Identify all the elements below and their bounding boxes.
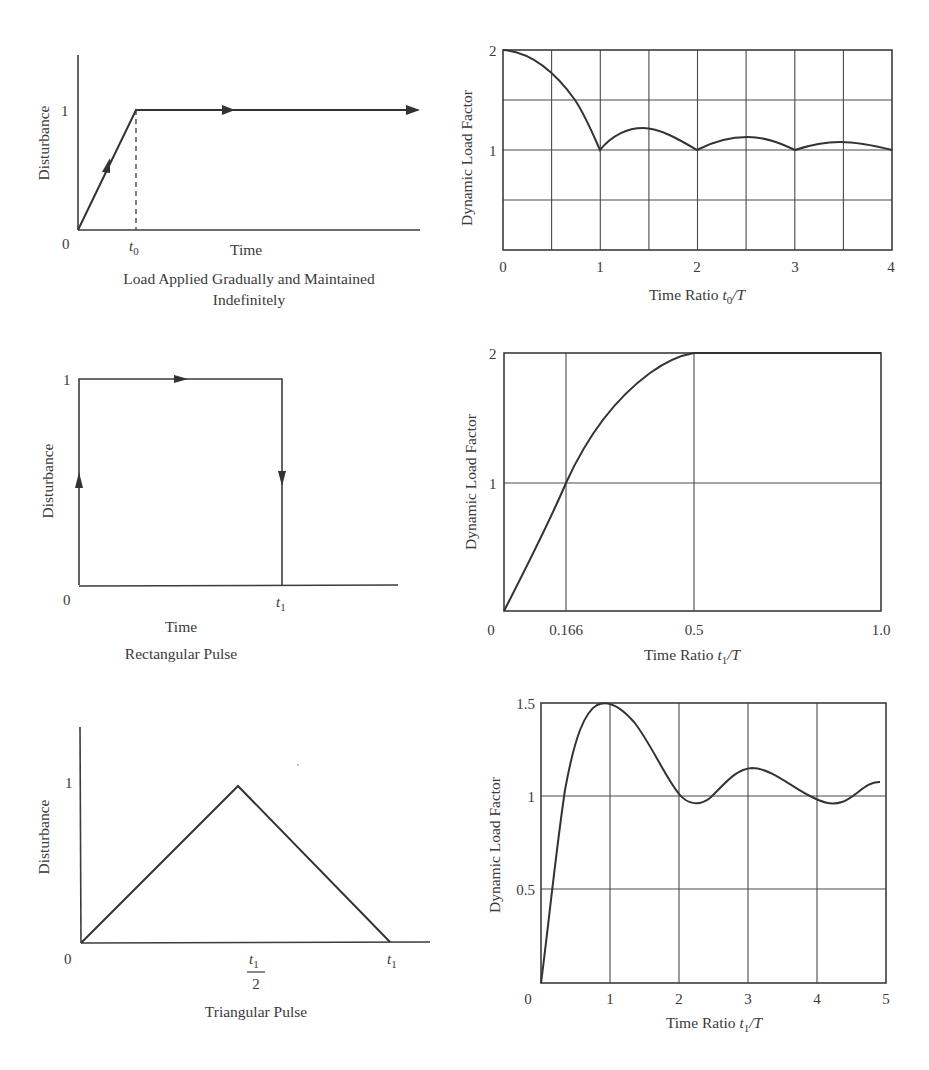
chart-dlf-triangular: 1.5 1 0.5 0 1 2 3 4 5 Time Ratio t1/T Dy…: [486, 696, 890, 1034]
caption: Rectangular Pulse: [125, 645, 237, 662]
speck: [297, 764, 299, 766]
panel-triangular-pulse: 1 0 t1 2 t1 Triangular Pulse Disturbance: [35, 727, 430, 1020]
x-tick-2: 2: [675, 991, 683, 1007]
x-axis-label: Time: [165, 618, 197, 635]
x-tick-t1: t1: [387, 951, 397, 970]
y-axis-label: Dynamic Load Factor: [462, 413, 479, 550]
x-tick-t1-half: t1 2: [247, 951, 265, 992]
x-tick-3: 3: [744, 991, 752, 1007]
x-tick-5: 5: [882, 991, 890, 1007]
figure-canvas: 1 0 t0 Time Load Applied Gradually and M…: [0, 0, 929, 1070]
pulse-path: [79, 379, 282, 585]
caption: Triangular Pulse: [205, 1003, 307, 1020]
y-tick-1: 1: [489, 143, 497, 159]
x-tick-1: 1: [596, 259, 604, 275]
y-tick-2: 2: [489, 43, 497, 59]
x-axis: [79, 585, 398, 586]
x-tick-10: 1.0: [872, 622, 891, 638]
y-tick-1: 1: [65, 775, 73, 791]
chart-dlf-rectangular: 2 1 0 0.166 0.5 1.0 Time Ratio t1/T Dyna…: [462, 346, 890, 666]
x-tick-2: 2: [693, 259, 701, 275]
plot-frame: [504, 353, 881, 611]
x-tick-05: 0.5: [685, 622, 704, 638]
x-axis: [81, 942, 430, 943]
arrow-up-icon: [75, 472, 83, 488]
x-tick-3: 3: [791, 259, 799, 275]
y-axis-label: Dynamic Load Factor: [458, 89, 475, 226]
dlf-curve: [541, 703, 880, 983]
y-tick-05: 0.5: [516, 882, 535, 898]
x-tick-t1: t1: [276, 594, 286, 613]
panel-rectangular-pulse: 1 0 t1 Time Rectangular Pulse Disturbanc…: [39, 372, 398, 662]
x-tick-1: 1: [606, 991, 614, 1007]
origin-label: 0: [63, 592, 71, 608]
y-tick-1: 1: [489, 476, 497, 492]
arrow-ramp-icon: [102, 158, 110, 173]
svg-text:t1: t1: [249, 951, 259, 970]
y-axis-label: Disturbance: [39, 443, 56, 518]
plot-frame: [541, 703, 886, 983]
x-tick-0: 0: [524, 991, 532, 1007]
y-tick-1: 1: [528, 789, 536, 805]
panel-gradual-load: 1 0 t0 Time Load Applied Gradually and M…: [35, 55, 420, 308]
arrow-right-icon: [174, 375, 188, 383]
pulse-path: [81, 786, 390, 943]
y-tick-1: 1: [63, 372, 71, 388]
x-tick-4: 4: [813, 991, 821, 1007]
x-tick-4: 4: [887, 259, 895, 275]
x-tick-t0: t0: [129, 238, 139, 257]
x-axis-label: Time Ratio t1/T: [666, 1014, 764, 1034]
y-axis-label: Disturbance: [35, 799, 52, 874]
load-path: [78, 110, 418, 230]
x-axis-label: Time: [230, 241, 262, 258]
grid: [504, 353, 881, 611]
y-tick-2: 2: [489, 346, 497, 362]
y-axis-label: Disturbance: [35, 105, 52, 180]
caption-line-1: Load Applied Gradually and Maintained: [123, 270, 375, 287]
chart-dlf-gradual: 2 1 0 1 2 3 4 Time Ratio t0/T Dynamic Lo…: [458, 43, 895, 306]
x-axis-label: Time Ratio t0/T: [649, 286, 747, 306]
arrow-right-icon: [222, 105, 235, 115]
y-tick-1: 1: [61, 103, 69, 119]
svg-text:2: 2: [252, 976, 260, 992]
y-tick-15: 1.5: [516, 696, 535, 712]
x-tick-0166: 0.166: [549, 622, 583, 638]
origin-label: 0: [64, 951, 72, 967]
arrow-right-end-icon: [406, 105, 420, 115]
y-axis: [80, 727, 81, 943]
grid: [541, 703, 886, 983]
caption-line-2: Indefinitely: [213, 291, 286, 308]
arrow-down-icon: [278, 471, 286, 486]
y-axis-label: Dynamic Load Factor: [486, 776, 503, 913]
dlf-curve: [504, 353, 881, 611]
x-axis-label: Time Ratio t1/T: [644, 646, 742, 666]
origin-label: 0: [62, 236, 70, 252]
x-tick-0: 0: [487, 622, 495, 638]
x-tick-0: 0: [499, 259, 507, 275]
